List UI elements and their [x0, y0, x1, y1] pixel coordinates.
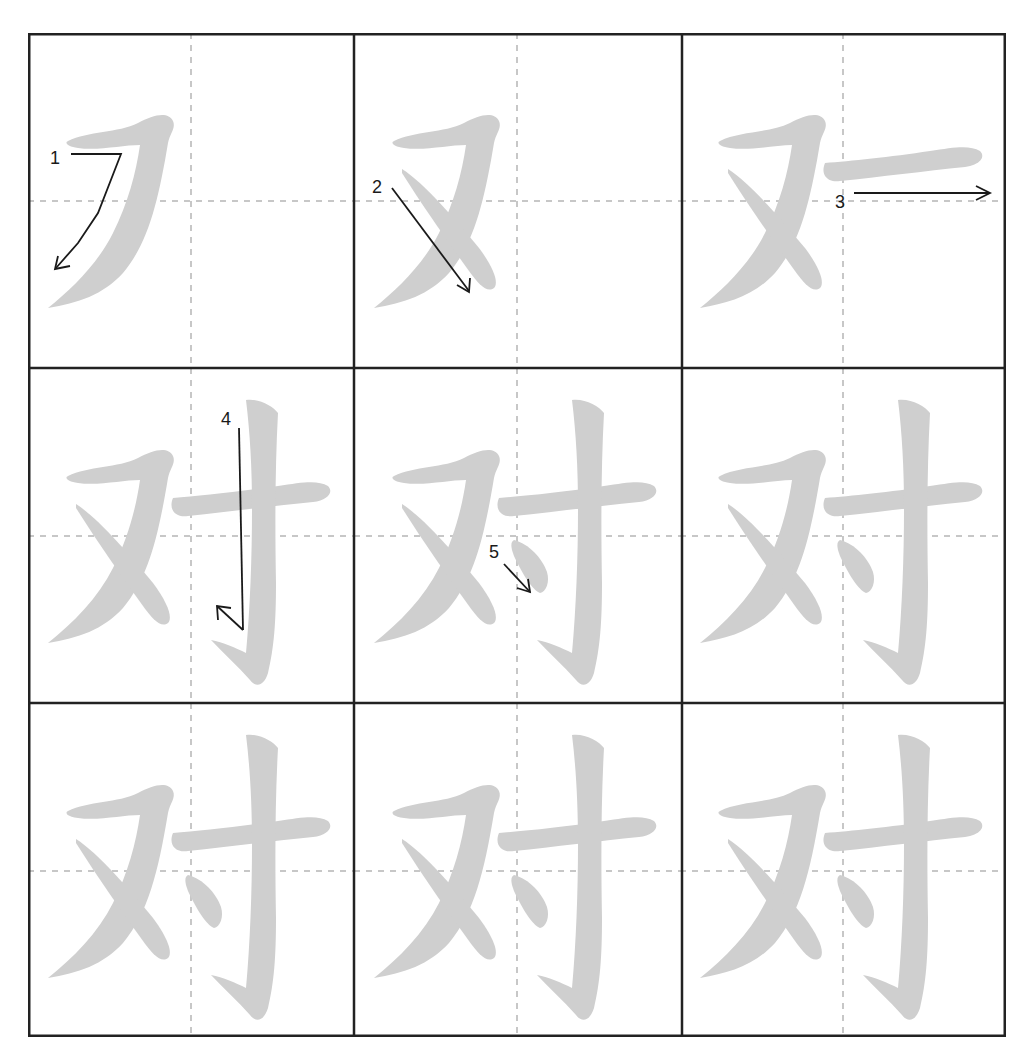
- stroke-label-4: 4: [221, 409, 231, 429]
- stroke-label-1: 1: [50, 148, 60, 168]
- stroke-label-2: 2: [372, 177, 382, 197]
- stroke-label-3: 3: [835, 192, 845, 212]
- cell-7: [28, 703, 354, 1037]
- stroke-order-grid: 1 2 3 4 5: [28, 33, 1006, 1037]
- cell-6: [680, 368, 1006, 703]
- cell-1: 1: [28, 33, 354, 368]
- grid-svg: 1 2 3 4 5: [28, 33, 1006, 1037]
- cell-2: 2: [354, 33, 680, 368]
- cell-9: [680, 703, 1006, 1037]
- cell-5: 5: [354, 368, 680, 703]
- cell-8: [354, 703, 680, 1037]
- cell-4: 4: [28, 368, 354, 703]
- cell-3: 3: [680, 33, 1006, 368]
- stroke-label-5: 5: [489, 542, 499, 562]
